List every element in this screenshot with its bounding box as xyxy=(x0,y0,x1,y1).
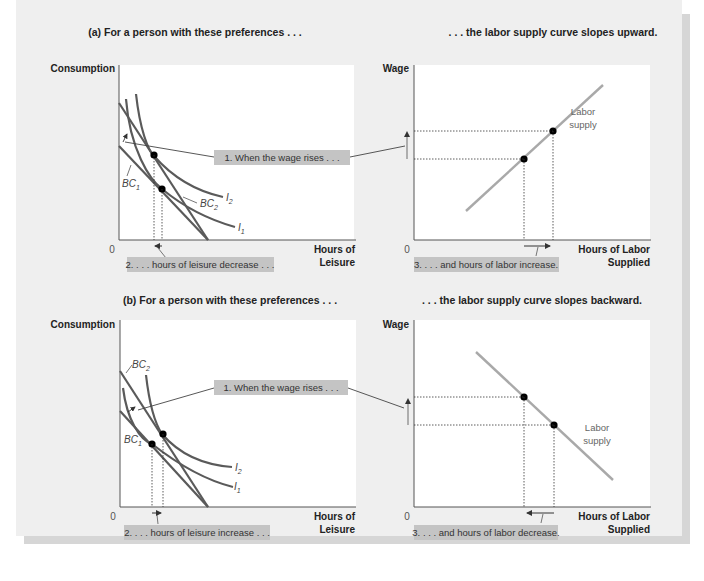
panel-b-right-plot: Wage 0 Hours of Labor Supplied Labor sup… xyxy=(383,319,651,535)
y-axis-label: Wage xyxy=(383,63,410,74)
callout-2-text: 2. . . . hours of leisure increase . . . xyxy=(124,527,270,538)
x-axis-label-line2: Supplied xyxy=(608,257,650,268)
x-axis-label-line1: Hours of Labor xyxy=(578,511,650,522)
callout-3-text: 3. . . . and hours of labor decrease. xyxy=(412,527,559,538)
y-axis-label: Consumption xyxy=(51,63,115,74)
y-axis-label: Consumption xyxy=(51,319,115,330)
x-axis-label-line2: Supplied xyxy=(608,524,650,535)
panel-b-right-title: . . . the labor supply curve slopes back… xyxy=(422,294,642,306)
x-axis-label-line2: Leisure xyxy=(319,257,355,268)
panel-a-left-title: (a) For a person with these preferences … xyxy=(88,26,302,38)
origin-label: 0 xyxy=(110,511,116,522)
panel-b-left-title: (b) For a person with these preferences … xyxy=(123,294,337,306)
callout-2-text: 2. . . . hours of leisure decrease . . . xyxy=(126,259,275,270)
origin-label: 0 xyxy=(109,244,115,255)
callout-3-text: 3. . . . and hours of labor increase. xyxy=(414,259,558,270)
x-axis-label-line1: Hours of xyxy=(314,244,356,255)
panel-a-right-title: . . . the labor supply curve slopes upwa… xyxy=(449,26,658,38)
panel-a-right-plot: Wage 0 Hours of Labor Supplied Labor sup… xyxy=(383,63,651,268)
x-axis-label-line2: Leisure xyxy=(319,524,355,535)
callout-1-text: 1. When the wage rises . . . xyxy=(224,152,339,163)
labor-supply-figure: (a) For a person with these preferences … xyxy=(0,0,704,581)
x-axis-label-line1: Hours of Labor xyxy=(578,244,650,255)
origin-label: 0 xyxy=(404,244,410,255)
y-axis-label: Wage xyxy=(383,319,410,330)
x-axis-label-line1: Hours of xyxy=(314,511,356,522)
origin-label: 0 xyxy=(404,511,410,522)
supply-label-line1: Labor xyxy=(585,422,609,433)
supply-label-line2: supply xyxy=(569,119,597,130)
supply-label-line2: supply xyxy=(583,435,611,446)
callout-1-text: 1. When the wage rises . . . xyxy=(223,382,338,393)
supply-label-line1: Labor xyxy=(571,106,595,117)
